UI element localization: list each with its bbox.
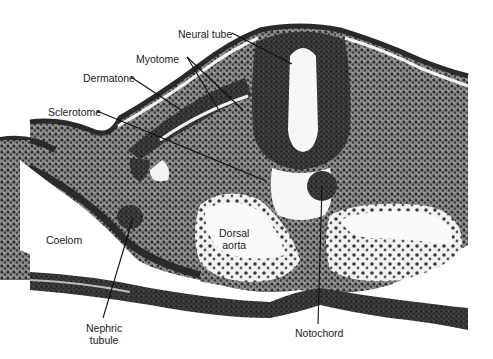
- label-coelom: Coelom: [46, 234, 82, 246]
- label-nephric-tubule: Nephric tubule: [86, 322, 122, 346]
- nephric-tubule-tissue: [117, 205, 143, 229]
- micrograph-image: [0, 0, 493, 359]
- label-notochord: Notochord: [295, 327, 343, 339]
- embryo-cross-section-figure: Neural tube Myotome Dermatone Sclerotome…: [0, 0, 493, 359]
- label-dermatone: Dermatone: [83, 72, 135, 84]
- label-dorsal-aorta: Dorsal aorta: [219, 227, 249, 251]
- label-sclerotome: Sclerotome: [48, 106, 101, 118]
- neural-canal: [288, 48, 318, 152]
- label-neural-tube: Neural tube: [178, 28, 232, 40]
- label-myotome: Myotome: [136, 53, 179, 65]
